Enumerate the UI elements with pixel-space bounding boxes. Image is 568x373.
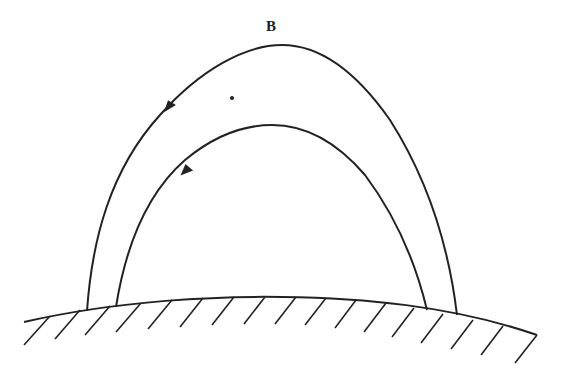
ground-hatching	[24, 297, 537, 363]
arrow-up-icon	[180, 163, 194, 175]
inner-field-line	[116, 125, 427, 310]
outer-field-line	[87, 45, 457, 315]
label-b: B	[266, 19, 276, 34]
mark-dot	[230, 96, 234, 100]
field-lines-diagram: B	[0, 0, 568, 373]
